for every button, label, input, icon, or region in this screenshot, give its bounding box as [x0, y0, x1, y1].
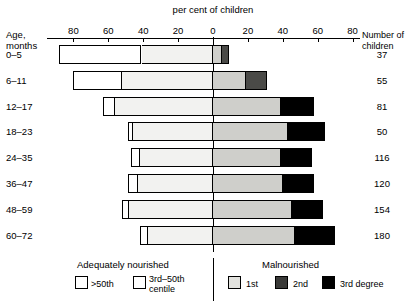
bar-segment-3rd-50th-7 [148, 226, 213, 245]
bar-segment-3rd-50th-0 [142, 45, 214, 64]
right-axis-title-line1: Number of [362, 30, 404, 41]
x-axis-line [47, 38, 360, 39]
bar-segment-3rd-degree-7 [295, 226, 335, 245]
bar-segment-2nd-degree-0 [222, 45, 229, 64]
bar-segment-1st-degree-6 [213, 200, 292, 219]
x-axis-tick-7 [318, 39, 319, 43]
x-axis-tick-5 [248, 39, 249, 43]
x-axis-tick-label-6: 40 [278, 25, 289, 36]
legend-divider [213, 258, 214, 301]
bar-segment-1st-degree-1 [213, 71, 246, 90]
x-axis-tick-2 [143, 39, 144, 43]
legend-right-title: Malnourished [262, 259, 319, 270]
bar-row [0, 226, 417, 245]
bar-row [0, 45, 417, 64]
x-axis-tick-6 [283, 39, 284, 43]
bar-segment-1st-degree-5 [213, 174, 283, 193]
bar-segment-gt50-1 [73, 71, 122, 90]
x-axis-tick-label-4: 0 [210, 25, 215, 36]
legend-label-gt50: >50th [91, 280, 114, 290]
bar-segment-3rd-50th-1 [122, 71, 213, 90]
bar-segment-3rd-50th-2 [115, 97, 213, 116]
bar-segment-gt50-5 [128, 174, 139, 193]
legend-label-2nd-degree: 2nd [293, 280, 308, 290]
bar-segment-gt50-0 [59, 45, 141, 64]
bar-segment-1st-degree-2 [213, 97, 281, 116]
bar-segment-3rd-degree-5 [283, 174, 314, 193]
x-axis-tick-label-0: 80 [68, 25, 79, 36]
bar-segment-3rd-50th-5 [138, 174, 213, 193]
legend-swatch-gt50 [75, 276, 88, 289]
legend-swatch-3rd-50th [133, 276, 146, 289]
legend-left-title: Adequately nourished [77, 259, 169, 270]
legend-label-3rd-degree: 3rd degree [340, 280, 384, 290]
bar-segment-1st-degree-3 [213, 122, 288, 141]
x-axis-tick-4 [213, 39, 214, 43]
bar-segment-3rd-degree-4 [281, 148, 312, 167]
legend-swatch-2nd-degree [275, 276, 288, 289]
x-axis-tick-label-2: 40 [138, 25, 149, 36]
bar-segment-1st-degree-7 [213, 226, 295, 245]
bar-row [0, 97, 417, 116]
x-axis-tick-label-8: 80 [347, 25, 358, 36]
bar-segment-gt50-7 [140, 226, 149, 245]
bar-segment-gt50-4 [131, 148, 140, 167]
x-axis-tick-8 [353, 39, 354, 43]
bar-segment-1st-degree-4 [213, 148, 281, 167]
bar-segment-3rd-degree-2 [281, 97, 314, 116]
nutrition-pyramid-chart: per cent of children Age, months Number … [0, 0, 417, 301]
x-axis-tick-label-3: 20 [173, 25, 184, 36]
x-axis-tick-label-5: 20 [243, 25, 254, 36]
bar-segment-1st-degree-0 [213, 45, 222, 64]
x-axis-tick-label-7: 60 [312, 25, 323, 36]
zero-baseline [213, 37, 214, 252]
bar-segment-3rd-50th-6 [129, 200, 213, 219]
legend-swatch-3rd-degree [322, 276, 335, 289]
x-axis-tick-3 [178, 39, 179, 43]
y-axis-title-line1: Age, [6, 30, 37, 41]
bar-row [0, 148, 417, 167]
x-axis-tick-label-1: 60 [103, 25, 114, 36]
bar-segment-3rd-degree-6 [292, 200, 323, 219]
bar-segment-3rd-50th-3 [133, 122, 213, 141]
bar-row [0, 200, 417, 219]
bar-segment-3rd-degree-3 [288, 122, 325, 141]
legend-label-3rd-50th: 3rd–50th centile [149, 275, 185, 294]
bar-segment-gt50-2 [103, 97, 115, 116]
x-axis-tick-1 [108, 39, 109, 43]
bar-row [0, 71, 417, 90]
legend-swatch-1st-degree [228, 276, 241, 289]
legend-label-3rd-50th-line2: centile [149, 285, 185, 295]
x-axis-tick-0 [73, 39, 74, 43]
bar-segment-2nd-degree-1 [246, 71, 267, 90]
bar-row [0, 122, 417, 141]
bar-segment-3rd-50th-4 [140, 148, 213, 167]
legend-label-1st-degree: 1st [246, 280, 258, 290]
bar-row [0, 174, 417, 193]
chart-axis-title: per cent of children [173, 4, 254, 15]
